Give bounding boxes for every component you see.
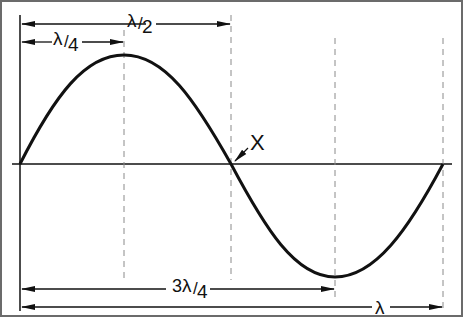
wavelength-label: λ	[375, 297, 385, 318]
diagram-frame: λ / 2 λ / 4 X 3 λ / 4 λ	[0, 0, 464, 318]
point-x-label: X	[250, 130, 265, 155]
svg-text:2: 2	[142, 16, 153, 37]
svg-text:λ: λ	[182, 275, 192, 296]
svg-text:λ: λ	[127, 10, 137, 31]
svg-text:4: 4	[197, 281, 208, 302]
svg-text:4: 4	[68, 34, 79, 55]
svg-text:λ: λ	[53, 28, 63, 49]
sine-wave-diagram: λ / 2 λ / 4 X 3 λ / 4 λ	[0, 0, 464, 318]
svg-text:3: 3	[172, 276, 182, 296]
